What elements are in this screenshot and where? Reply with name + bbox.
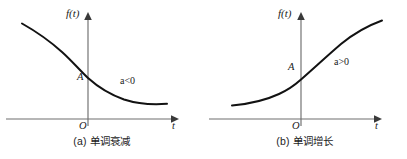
figure-container: f(t) t O A a<0 (a) 单调衰减 f(t) t O A a>0 (… xyxy=(0,0,407,159)
origin-label: O xyxy=(292,121,300,132)
intercept-point-label: A xyxy=(288,62,294,73)
intercept-point-label: A xyxy=(77,72,83,83)
parameter-condition-label: a<0 xyxy=(120,76,135,86)
decay-curve xyxy=(22,24,167,105)
parameter-condition-label: a>0 xyxy=(334,57,349,67)
panel-monotonic-growth: f(t) t O A a>0 (b) 单调增长 xyxy=(203,0,407,159)
panel-caption-growth: (b) 单调增长 xyxy=(203,133,407,148)
x-axis-label: t xyxy=(172,121,175,132)
y-axis-label: f(t) xyxy=(66,8,79,19)
y-axis-arrowhead xyxy=(297,12,305,20)
panel-caption-decay: (a) 单调衰减 xyxy=(0,133,204,148)
growth-curve xyxy=(232,21,382,106)
origin-label: O xyxy=(79,121,87,132)
x-axis-label: t xyxy=(375,121,378,132)
y-axis-arrowhead xyxy=(84,12,92,20)
panel-monotonic-decay: f(t) t O A a<0 (a) 单调衰减 xyxy=(0,0,204,159)
y-axis-label: f(t) xyxy=(278,8,291,19)
